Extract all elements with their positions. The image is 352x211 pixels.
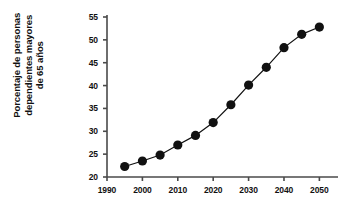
x-axis-tick-label: 2040	[267, 185, 301, 195]
y-axis-tick-label: 25	[76, 149, 98, 159]
x-axis-tick-label: 2010	[161, 185, 195, 195]
data-point-marker	[120, 162, 129, 171]
x-axis-tick-label: 2000	[125, 185, 159, 195]
y-axis-tick-label: 35	[76, 103, 98, 113]
data-point-marker	[209, 118, 218, 127]
y-axis-tick-label: 30	[76, 126, 98, 136]
y-axis-tick-label: 40	[76, 81, 98, 91]
data-point-marker	[279, 43, 288, 52]
chart-plot-area	[0, 0, 352, 211]
data-point-marker	[138, 156, 147, 165]
data-point-marker	[244, 81, 253, 90]
data-point-marker	[191, 131, 200, 140]
y-axis-tick-label: 50	[76, 35, 98, 45]
y-axis-tick-label: 45	[76, 58, 98, 68]
x-axis-tick-label: 2020	[196, 185, 230, 195]
chart-container: Porcentaje de personas dependientes mayo…	[0, 0, 352, 211]
x-axis-tick-label: 1990	[90, 185, 124, 195]
data-point-marker	[315, 22, 324, 31]
y-axis-tick-label: 20	[76, 172, 98, 182]
data-point-marker	[156, 150, 165, 159]
data-point-marker	[297, 30, 306, 39]
x-axis-tick-label: 2050	[302, 185, 336, 195]
y-axis-tick-label: 55	[76, 12, 98, 22]
data-point-marker	[173, 140, 182, 149]
data-point-marker	[226, 100, 235, 109]
data-point-marker	[262, 63, 271, 72]
x-axis-tick-label: 2030	[232, 185, 266, 195]
series-line	[125, 27, 320, 166]
